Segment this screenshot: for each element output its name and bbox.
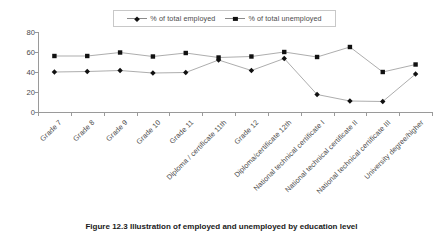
x-axis-tick-mark — [432, 113, 433, 116]
x-axis-label: Grade 7 — [39, 118, 64, 143]
x-axis-tick-mark — [38, 113, 39, 116]
legend-entry-employed: % of total employed — [127, 14, 215, 23]
diamond-marker-icon — [127, 18, 147, 19]
y-axis-tick-label: 80 — [27, 28, 35, 37]
square-marker-icon — [216, 55, 220, 59]
square-marker-icon — [282, 50, 286, 54]
x-axis-label: Grade 9 — [104, 118, 129, 143]
legend-label-employed: % of total employed — [150, 14, 215, 23]
plot-area: 020406080 — [38, 32, 432, 112]
x-axis-tick-mark — [71, 113, 72, 116]
x-axis-tick-mark — [301, 113, 302, 116]
legend-entry-unemployed: % of total unemployed — [225, 14, 321, 23]
x-axis-tick-mark — [366, 113, 367, 116]
figure-container: % of total employed % of total unemploye… — [0, 0, 443, 231]
diamond-marker-icon — [249, 68, 254, 73]
x-axis-tick-mark — [104, 113, 105, 116]
series-line — [54, 59, 415, 102]
diamond-marker-icon — [150, 70, 155, 75]
square-marker-icon — [184, 51, 188, 55]
figure-caption: Figure 12.3 Illustration of employed and… — [0, 222, 443, 231]
chart-series-svg — [38, 32, 432, 112]
x-axis-label: Grade 11 — [167, 118, 195, 146]
y-axis-tick-label: 20 — [27, 88, 35, 97]
x-axis-tick-mark — [334, 113, 335, 116]
legend-label-unemployed: % of total unemployed — [248, 14, 321, 23]
y-axis-tick-label: 0 — [31, 108, 35, 117]
diamond-marker-icon — [183, 70, 188, 75]
square-marker-icon — [348, 45, 352, 49]
square-marker-icon — [85, 54, 89, 58]
diamond-marker-icon — [117, 68, 122, 73]
x-axis-label: Diploma / certificate 11th — [164, 118, 228, 182]
x-axis-tick-mark — [268, 113, 269, 116]
square-marker-icon — [52, 54, 56, 58]
y-axis-tick-label: 40 — [27, 68, 35, 77]
square-marker-icon — [381, 70, 385, 74]
y-axis-tick-label: 60 — [27, 48, 35, 57]
x-axis-tick-mark — [169, 113, 170, 116]
diamond-marker-icon — [52, 69, 57, 74]
x-axis-label: Grade 12 — [233, 118, 261, 146]
x-axis-tick-mark — [235, 113, 236, 116]
x-axis-tick-mark — [202, 113, 203, 116]
x-axis-tick-mark — [399, 113, 400, 116]
square-marker-icon — [225, 18, 245, 19]
square-marker-icon — [118, 50, 122, 54]
x-axis-label: University degree/higher — [362, 118, 425, 181]
diamond-marker-icon — [85, 69, 90, 74]
square-marker-icon — [413, 62, 417, 66]
square-marker-icon — [315, 55, 319, 59]
series-line — [54, 47, 415, 72]
square-marker-icon — [249, 54, 253, 58]
chart-legend: % of total employed % of total unemploye… — [113, 10, 336, 27]
square-marker-icon — [151, 54, 155, 58]
x-axis-label: Grade 10 — [134, 118, 162, 146]
x-axis-label: Diploma/certificate 12th — [232, 118, 293, 179]
diamond-marker-icon — [347, 98, 352, 103]
x-axis-tick-mark — [137, 113, 138, 116]
x-axis-label: Grade 8 — [71, 118, 96, 143]
